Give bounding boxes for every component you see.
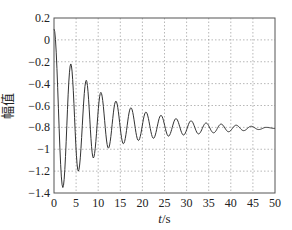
x-tick-label: 20 <box>136 196 148 210</box>
y-tick-label: −0.8 <box>28 120 50 134</box>
y-tick-label: −0.2 <box>28 55 50 69</box>
x-tick-label: 30 <box>181 196 193 210</box>
x-tick-label: 45 <box>247 196 259 210</box>
x-axis-ticks: 05101520253035404550 <box>51 196 281 210</box>
x-tick-label: 10 <box>92 196 104 210</box>
line-chart: 0.20−0.2−0.4−0.6−0.8−1−1.2−1.4 051015202… <box>0 0 292 230</box>
y-axis-ticks: 0.20−0.2−0.4−0.6−0.8−1−1.2−1.4 <box>28 11 50 200</box>
grid-lines <box>54 18 275 193</box>
y-tick-label: 0 <box>44 33 50 47</box>
y-tick-label: −1 <box>37 142 50 156</box>
x-axis-label: t/s <box>158 211 170 226</box>
y-tick-label: 0.2 <box>35 11 50 25</box>
y-axis-label: 幅值 <box>0 93 15 119</box>
y-tick-label: −1.4 <box>28 186 50 200</box>
x-tick-label: 50 <box>269 196 281 210</box>
y-tick-label: −0.4 <box>28 77 50 91</box>
x-tick-label: 15 <box>114 196 126 210</box>
x-tick-label: 25 <box>159 196 171 210</box>
y-tick-label: −0.6 <box>28 99 50 113</box>
x-tick-label: 0 <box>51 196 57 210</box>
response-line <box>54 29 275 188</box>
y-tick-label: −1.2 <box>28 164 50 178</box>
x-tick-label: 40 <box>225 196 237 210</box>
x-tick-label: 5 <box>73 196 79 210</box>
x-tick-label: 35 <box>203 196 215 210</box>
